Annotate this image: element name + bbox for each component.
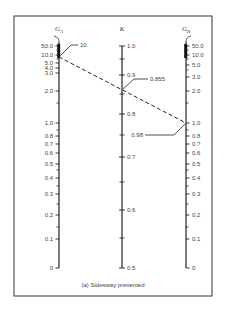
leader-line <box>60 45 78 56</box>
tick-label: 0 <box>192 265 196 271</box>
tick-label: 1.0 <box>127 43 136 49</box>
tick-label: 0.6 <box>45 150 54 156</box>
tick-label: 2.0 <box>192 88 201 94</box>
annotation-g-a: 10 <box>60 42 87 56</box>
tick-label: 0.4 <box>192 175 201 181</box>
tick-label: 1.0 <box>45 120 54 126</box>
annotation-g-b: 0.98 <box>131 124 185 138</box>
tick-label: 10.0 <box>41 52 53 58</box>
tick-label: 10.0 <box>192 52 204 58</box>
tick-label: 0.5 <box>127 265 136 271</box>
leader-line <box>145 124 185 135</box>
axes-group: GA50.010.05.04.03.02.01.00.80.70.60.50.4… <box>41 25 204 271</box>
axis-g-b: GB50.010.05.03.02.01.00.80.70.60.50.40.3… <box>182 25 204 271</box>
tick-label: 0 <box>50 265 54 271</box>
axis-g-a: GA50.010.05.04.03.02.01.00.80.70.60.50.4… <box>41 25 64 271</box>
tick-label: 0.7 <box>192 141 201 147</box>
tick-label: 50.0 <box>41 43 53 49</box>
axis-title: K <box>119 25 125 33</box>
tick-label: 0.6 <box>192 150 201 156</box>
tick-label: 0.5 <box>45 161 54 167</box>
infinity-curl-icon <box>186 36 191 42</box>
tick-label: 5.0 <box>192 62 201 68</box>
chart-caption: (a) Sidesway prevented <box>81 282 144 288</box>
axis-k: K1.00.90.80.70.60.5 <box>119 25 136 271</box>
annotation-label: 0.98 <box>131 132 143 138</box>
tick-label: 0.1 <box>45 236 54 242</box>
tick-label: 0.7 <box>127 154 136 160</box>
annotation-label: 10 <box>80 42 87 48</box>
tick-label: 0.3 <box>45 191 54 197</box>
tick-label: 0.1 <box>192 236 201 242</box>
tick-label: 0.8 <box>45 133 54 139</box>
tick-label: 0.6 <box>127 207 136 213</box>
tick-label: 50.0 <box>192 43 204 49</box>
tick-label: 0.3 <box>192 191 201 197</box>
tick-label: 2.0 <box>45 88 54 94</box>
leader-line <box>123 79 148 89</box>
tick-label: 0.5 <box>192 161 201 167</box>
axis-title: GA <box>55 25 64 34</box>
tick-label: 3.0 <box>192 74 201 80</box>
tick-label: 0.9 <box>127 72 136 78</box>
tick-label: 0.2 <box>45 212 54 218</box>
alignment-chart: GA50.010.05.04.03.02.01.00.80.70.60.50.4… <box>0 0 226 315</box>
tick-label: 0.2 <box>192 212 201 218</box>
tick-label: 1.0 <box>192 120 201 126</box>
chart-frame <box>14 16 212 296</box>
tick-label: 0.4 <box>45 175 54 181</box>
tick-label: 0.8 <box>192 133 201 139</box>
tick-label: 0.8 <box>127 111 136 117</box>
infinity-curl-icon <box>54 36 59 42</box>
axis-title: GB <box>182 25 190 34</box>
tick-label: 0.7 <box>45 141 54 147</box>
annotation-label: 0.855 <box>150 76 166 82</box>
tick-label: 3.0 <box>45 70 54 76</box>
